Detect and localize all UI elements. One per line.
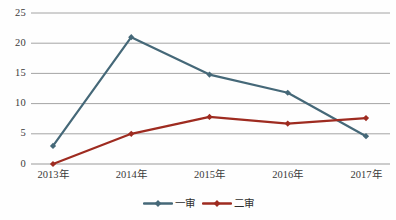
y-tick-label: 5 [0,128,26,139]
plot-area [31,13,390,164]
series-line [53,37,366,146]
line-chart: 0510152025 2013年2014年2015年2016年2017年 一审二… [0,0,396,220]
x-axis: 2013年2014年2015年2016年2017年 [31,170,390,188]
data-point-marker [128,131,134,137]
y-axis: 0510152025 [0,0,29,220]
legend-entry[interactable]: 一审 [143,198,195,209]
legend-entry[interactable]: 二审 [202,198,254,209]
y-tick-label: 20 [0,38,26,49]
data-series-layer [31,13,390,164]
legend-label: 二审 [234,198,254,209]
x-tick-label: 2013年 [38,170,69,181]
x-tick-label: 2016年 [272,170,303,181]
data-point-marker [50,161,56,167]
x-tick-label: 2017年 [351,170,382,181]
y-tick-label: 10 [0,98,26,109]
series-line [53,117,366,164]
y-tick-label: 0 [0,159,26,170]
series-2 [50,114,369,167]
data-point-marker [363,115,369,121]
chart-legend: 一审二审 [0,193,396,213]
series-1 [50,34,369,149]
x-tick-label: 2015年 [194,170,225,181]
y-tick-label: 15 [0,68,26,79]
legend-marker-icon [143,198,173,209]
legend-label: 一审 [175,198,195,209]
x-tick-label: 2014年 [116,170,147,181]
data-point-marker [206,114,212,120]
y-tick-label: 25 [0,8,26,19]
data-point-marker [285,120,291,126]
legend-marker-icon [202,198,232,209]
